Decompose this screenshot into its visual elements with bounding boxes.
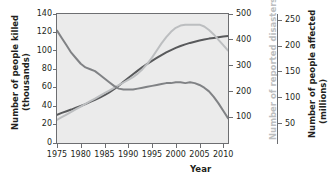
right-inner-tickmark-100 bbox=[228, 117, 233, 118]
right-outer-tick-150: 150 bbox=[285, 67, 300, 76]
x-tick-2005: 2005 bbox=[188, 150, 212, 159]
right-inner-axis-spine bbox=[228, 14, 229, 144]
right-outer-tickmark-100 bbox=[277, 97, 282, 98]
right-inner-tickmark-500 bbox=[228, 14, 233, 15]
right-inner-tickmark-300 bbox=[228, 65, 233, 66]
right-outer-tickmark-50 bbox=[277, 123, 282, 124]
x-tick-1975: 1975 bbox=[45, 150, 69, 159]
right-inner-tick-400: 400 bbox=[236, 35, 251, 44]
right-outer-tick-250: 250 bbox=[285, 15, 300, 24]
x-tick-1995: 1995 bbox=[140, 150, 164, 159]
left-tick-60: 60 bbox=[29, 82, 52, 91]
right-outer-axis-spine bbox=[277, 14, 278, 144]
x-tickmark-1980 bbox=[81, 144, 82, 148]
left-tick-0: 0 bbox=[29, 138, 52, 147]
x-tickmark-2005 bbox=[200, 144, 201, 148]
right-inner-tick-100: 100 bbox=[236, 112, 251, 121]
right-inner-tickmark-200 bbox=[228, 91, 233, 92]
left-tick-100: 100 bbox=[29, 46, 52, 55]
plot-area bbox=[57, 14, 228, 143]
right-inner-tick-200: 200 bbox=[236, 87, 251, 96]
left-tick-140: 140 bbox=[29, 9, 52, 18]
right-outer-tickmark-150 bbox=[277, 71, 282, 72]
right-outer-tickmark-200 bbox=[277, 46, 282, 47]
x-axis-title: Year bbox=[190, 164, 211, 174]
x-tickmark-1995 bbox=[152, 144, 153, 148]
plot-top-spine bbox=[56, 13, 229, 14]
x-tickmark-1985 bbox=[105, 144, 106, 148]
right-inner-tick-300: 300 bbox=[236, 61, 251, 70]
x-tickmark-2010 bbox=[223, 144, 224, 148]
left-tick-120: 120 bbox=[29, 27, 52, 36]
x-tick-2000: 2000 bbox=[164, 150, 188, 159]
right-outer-axis-title-line2: (millions) bbox=[318, 79, 328, 124]
x-tickmark-1990 bbox=[128, 144, 129, 148]
right-outer-tick-200: 200 bbox=[285, 41, 300, 50]
right-inner-tick-500: 500 bbox=[236, 9, 251, 18]
right-inner-tickmark-400 bbox=[228, 39, 233, 40]
right-outer-tick-50: 50 bbox=[285, 119, 295, 128]
x-tickmark-1975 bbox=[57, 144, 58, 148]
right-outer-axis-title-line1: Number of people affected bbox=[307, 10, 317, 138]
line-reported-disasters bbox=[57, 36, 228, 115]
x-tick-1985: 1985 bbox=[93, 150, 117, 159]
x-tick-2010: 2010 bbox=[211, 150, 235, 159]
left-tick-20: 20 bbox=[29, 119, 52, 128]
series-lines bbox=[57, 14, 228, 143]
left-axis-title-line1: Number of people killed bbox=[10, 15, 20, 130]
plot-bottom-spine bbox=[56, 143, 229, 144]
x-tickmark-2000 bbox=[176, 144, 177, 148]
left-tick-80: 80 bbox=[29, 64, 52, 73]
x-tick-1980: 1980 bbox=[69, 150, 93, 159]
x-tick-1990: 1990 bbox=[116, 150, 140, 159]
right-outer-tickmark-250 bbox=[277, 20, 282, 21]
left-tick-40: 40 bbox=[29, 101, 52, 110]
right-outer-tick-100: 100 bbox=[285, 93, 300, 102]
